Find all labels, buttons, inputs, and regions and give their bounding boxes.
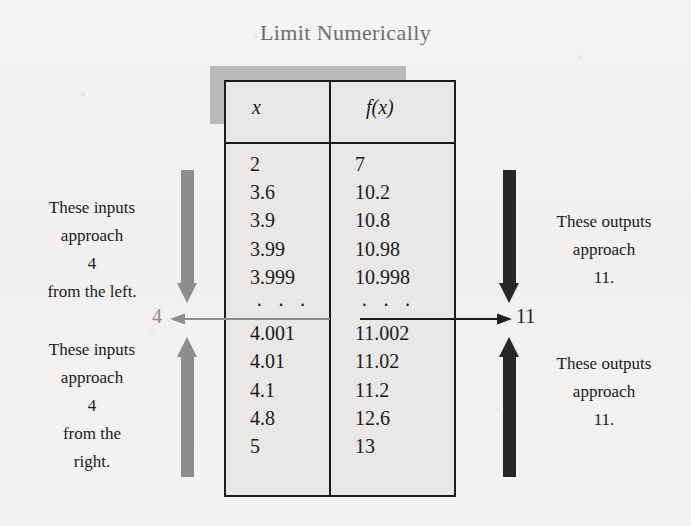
column-header-fx: f(x): [366, 96, 394, 119]
table-cell-fx: 7: [355, 150, 416, 178]
note-line: These inputs: [12, 194, 172, 222]
arrow-shaft: [181, 357, 194, 477]
column-fx-values: 7 10.2 10.8 10.98 10.998 · · · 11.002 11…: [355, 150, 416, 460]
table-column-divider: [329, 82, 331, 495]
arrow-head: [177, 337, 197, 357]
arrow-head: [499, 283, 519, 303]
table-cell-fx: 10.8: [355, 206, 416, 234]
arrow-head: [177, 283, 197, 303]
column-x-values: 2 3.6 3.9 3.99 3.999 · · · 4.001 4.01 4.…: [250, 150, 311, 460]
note-inputs-from-left: These inputs approach 4 from the left.: [12, 194, 172, 306]
limit-output-label: 11: [516, 305, 535, 328]
note-line: These outputs: [528, 350, 680, 378]
table-cell-x: 4.8: [250, 404, 311, 432]
table-cell-x: 2: [250, 150, 311, 178]
table-cell-fx: 11.2: [355, 376, 416, 404]
table-cell-fx: 13: [355, 432, 416, 460]
note-line: 4: [12, 250, 172, 278]
table-cell-fx: 12.6: [355, 404, 416, 432]
note-line: from the: [12, 420, 172, 448]
limit-table: x f(x) 2 3.6 3.9 3.99 3.999 · · · 4.001 …: [224, 80, 456, 497]
table-cell-x: 3.999: [250, 263, 311, 291]
table-cell-fx: 10.998: [355, 263, 416, 291]
note-line: approach: [12, 364, 172, 392]
table-cell-x: 3.6: [250, 178, 311, 206]
table-cell-x: 4.01: [250, 347, 311, 375]
arrow-down-outputs-upper-icon: [499, 170, 520, 303]
arrow-right-to-limit-icon: [360, 311, 512, 327]
note-line: approach: [12, 222, 172, 250]
note-line: approach: [528, 378, 680, 406]
note-inputs-from-right: These inputs approach 4 from the right.: [12, 336, 172, 476]
table-cell-x: 3.9: [250, 206, 311, 234]
arrow-up-outputs-lower-icon: [499, 337, 520, 477]
note-line: These outputs: [528, 208, 680, 236]
note-outputs-lower: These outputs approach 11.: [528, 350, 680, 434]
column-header-x: x: [252, 96, 261, 119]
page-title: Limit Numerically: [0, 20, 691, 46]
table-cell-fx: 11.02: [355, 347, 416, 375]
note-line: from the left.: [12, 278, 172, 306]
note-line: approach: [528, 236, 680, 264]
arrow-shaft: [503, 170, 516, 287]
note-line: 4: [12, 392, 172, 420]
note-line: These inputs: [12, 336, 172, 364]
arrow-head: [499, 337, 519, 357]
arrow-left-to-limit-icon: [170, 311, 330, 327]
table-header-divider: [226, 142, 454, 144]
note-line: 11.: [528, 264, 680, 292]
note-outputs-upper: These outputs approach 11.: [528, 208, 680, 292]
table-cell-fx: 10.2: [355, 178, 416, 206]
arrow-up-inputs-right-icon: [177, 337, 198, 477]
arrow-down-inputs-left-icon: [177, 170, 198, 303]
arrow-shaft: [503, 357, 516, 477]
arrow-shaft: [181, 170, 194, 287]
note-line: 11.: [528, 406, 680, 434]
table-cell-fx: 10.98: [355, 235, 416, 263]
table-cell-x: 5: [250, 432, 311, 460]
table-cell-x: 4.1: [250, 376, 311, 404]
table-cell-x: 3.99: [250, 235, 311, 263]
limit-input-label: 4: [152, 305, 162, 328]
note-line: right.: [12, 448, 172, 476]
